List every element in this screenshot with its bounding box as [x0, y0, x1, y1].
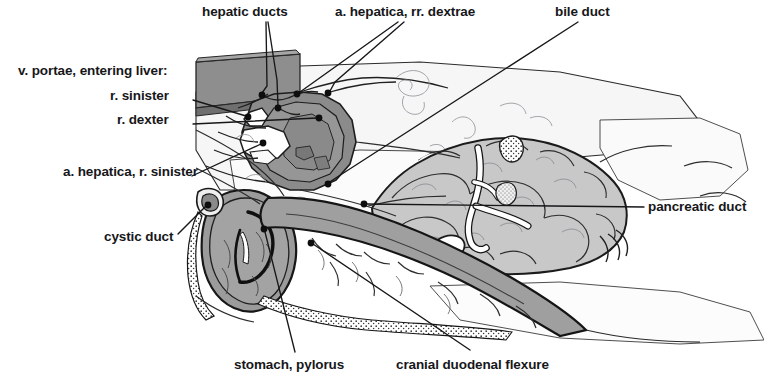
anchor-dot-hepatic-ducts-0 — [259, 92, 266, 99]
anchor-dot-bile-duct-0 — [325, 181, 332, 188]
anchor-dot-a-hepatica-rr-dextrae-0 — [294, 91, 301, 98]
anchor-dot-cystic-duct-0 — [205, 202, 212, 209]
label-r-dexter: r. dexter — [117, 113, 169, 127]
label-bile-duct: bile duct — [555, 5, 610, 19]
label-hepatic-ducts: hepatic ducts — [202, 5, 288, 19]
label-cranial-duodenal-flexure: cranial duodenal flexure — [396, 358, 549, 372]
anchor-dot-hepatic-ducts-1 — [275, 105, 282, 112]
anchor-dot-stomach-pylorus-0 — [261, 226, 268, 233]
anatomy-illustration — [0, 0, 764, 384]
label-stomach-pylorus: stomach, pylorus — [234, 358, 344, 372]
anchor-dot-a-hepatica-rr-dextrae-1 — [325, 90, 332, 97]
anchor-dot-r-sinister-0 — [245, 114, 252, 121]
label-cystic-duct: cystic duct — [104, 230, 173, 244]
anchor-dot-cranial-duodenal-flexure-0 — [308, 240, 315, 247]
anchor-dot-a-hepatica-r-sinister-0 — [260, 140, 267, 147]
label-pancreatic-duct: pancreatic duct — [648, 200, 746, 214]
anchor-dot-pancreatic-duct-0 — [361, 201, 368, 208]
anatomical-figure: hepatic ductsa. hepatica, rr. dextraebil… — [0, 0, 764, 384]
anchor-dot-r-dexter-0 — [316, 115, 323, 122]
label-a-hepatica-rr-dextrae: a. hepatica, rr. dextrae — [335, 5, 475, 19]
label-v-portae-entering-liver: v. portae, entering liver: — [18, 64, 167, 78]
label-r-sinister: r. sinister — [110, 89, 169, 103]
label-a-hepatica-r-sinister: a. hepatica, r. sinister — [63, 165, 198, 179]
